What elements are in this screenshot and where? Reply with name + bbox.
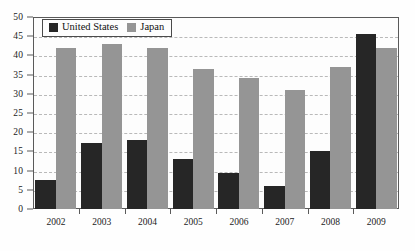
bar-japan-2002 [56,48,77,209]
bars-layer [33,17,399,209]
legend-swatch-icon [127,23,136,32]
x-tick-label-2009: 2009 [367,217,386,227]
x-tick-mark [353,209,354,214]
x-tick-mark [262,209,263,214]
bar-group [262,17,308,209]
bar-united-states-2008 [310,151,331,209]
bar-chart: 05101520253035404550 2002200320042005200… [0,0,415,251]
chart-legend: United StatesJapan [42,19,172,37]
bar-japan-2005 [193,69,214,209]
x-tick-label-2005: 2005 [184,217,203,227]
bar-united-states-2002 [35,180,56,209]
y-tick-label: 0 [18,204,23,214]
x-tick-mark [79,209,80,214]
y-tick-label: 35 [13,70,23,80]
bar-group [308,17,354,209]
x-tick-label-2002: 2002 [46,217,65,227]
bar-group [216,17,262,209]
bar-united-states-2004 [127,140,148,209]
x-tick-mark [170,209,171,214]
bar-group [353,17,399,209]
bar-japan-2004 [147,48,168,209]
bar-united-states-2006 [218,173,239,209]
bar-united-states-2007 [264,186,285,209]
x-tick-mark [216,209,217,214]
legend-entry-united-states[interactable]: United States [49,22,118,33]
bar-united-states-2003 [81,143,102,209]
y-tick-label: 45 [13,31,23,41]
x-tick-label-2004: 2004 [138,217,157,227]
y-tick-label: 50 [13,12,23,22]
y-tick-label: 15 [13,146,23,156]
x-tick-mark [125,209,126,214]
legend-label: United States [62,22,118,33]
legend-label: Japan [140,22,164,33]
y-tick-label: 40 [13,50,23,60]
y-axis: 05101520253035404550 [0,17,31,209]
bar-group [170,17,216,209]
x-tick-label-2003: 2003 [92,217,111,227]
x-tick-label-2007: 2007 [275,217,294,227]
bar-japan-2003 [102,44,123,209]
x-axis: 20022003200420052006200720082009 [33,209,399,239]
y-tick-label: 5 [18,185,23,195]
y-tick-label: 30 [13,89,23,99]
x-tick-label-2006: 2006 [229,217,248,227]
bar-group [33,17,79,209]
bar-group [79,17,125,209]
bar-japan-2009 [376,48,397,209]
bar-group [125,17,171,209]
bar-japan-2008 [330,67,351,209]
x-tick-mark [308,209,309,214]
legend-swatch-icon [49,23,58,32]
y-tick-label: 25 [13,108,23,118]
y-tick-label: 10 [13,166,23,176]
y-tick-label: 20 [13,127,23,137]
bar-japan-2007 [285,90,306,209]
legend-entry-japan[interactable]: Japan [127,22,164,33]
x-tick-label-2008: 2008 [321,217,340,227]
bar-japan-2006 [239,78,260,209]
bar-united-states-2009 [356,34,377,209]
bar-united-states-2005 [173,159,194,209]
